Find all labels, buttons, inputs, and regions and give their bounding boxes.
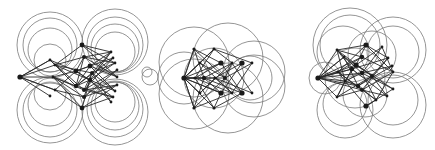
graph-node: [218, 90, 223, 95]
circle-arc: [17, 12, 83, 78]
graph-node: [49, 59, 52, 62]
graph-node: [231, 92, 234, 95]
graph-node: [74, 69, 79, 74]
graph-node: [375, 99, 378, 102]
graph-node: [363, 42, 368, 47]
graph-drawing-middle: [158, 23, 285, 133]
graph-node: [202, 76, 206, 80]
graph-node: [381, 46, 384, 49]
circle-arc: [23, 18, 77, 72]
graph-node: [199, 62, 202, 65]
graph-node: [387, 57, 390, 60]
graph-node: [360, 55, 364, 59]
graph-node: [114, 62, 117, 65]
graph-node: [54, 89, 57, 92]
graph-node: [112, 57, 115, 60]
graph-node: [392, 88, 395, 91]
graph-node: [231, 62, 234, 65]
graph-node: [88, 78, 92, 82]
graph-drawings-figure: [0, 0, 435, 150]
graph-node: [112, 96, 115, 99]
graph-node: [181, 75, 186, 80]
circle-arc: [95, 82, 135, 122]
graph-node: [353, 62, 358, 67]
circle-arc: [360, 72, 426, 138]
graph-node: [213, 76, 216, 79]
graph-drawing-left: [17, 9, 158, 145]
graph-node: [392, 71, 395, 74]
graph-node: [218, 60, 223, 65]
graph-node: [386, 95, 389, 98]
graph-node: [370, 74, 374, 78]
graph-node: [116, 69, 119, 72]
graph-node: [350, 67, 354, 71]
graph-node: [110, 101, 113, 104]
graph-node: [336, 49, 339, 52]
graph-drawing-right: [309, 8, 426, 138]
graph-node: [82, 88, 86, 92]
graph-node: [391, 65, 394, 68]
graph-node: [212, 47, 215, 50]
graph-node: [54, 64, 57, 67]
graph-node: [239, 90, 244, 95]
graph-node: [110, 51, 113, 54]
graph-node: [337, 71, 340, 74]
graph-node: [116, 76, 119, 79]
graph-node: [239, 60, 244, 65]
graph-node: [343, 56, 346, 59]
graph-node: [192, 47, 195, 50]
graph-node: [199, 92, 202, 95]
graph-node: [363, 103, 368, 108]
graph-node: [223, 76, 227, 80]
graph-node: [360, 88, 364, 92]
circle-arc: [91, 24, 139, 72]
graph-node: [74, 84, 78, 88]
graph-node: [88, 64, 93, 69]
graph-node: [360, 71, 364, 75]
graph-node: [212, 106, 215, 109]
graph-node: [82, 95, 86, 99]
graph-node: [116, 84, 119, 87]
graph-node: [90, 71, 94, 75]
graph-node: [344, 80, 347, 83]
graph-node: [251, 62, 254, 65]
circle-arc: [87, 81, 143, 137]
graph-node: [52, 76, 55, 79]
graph-node: [315, 75, 320, 80]
edge: [214, 93, 242, 108]
graph-node: [80, 106, 85, 111]
graph-node: [356, 84, 360, 88]
graph-node: [336, 96, 339, 99]
circle-arc: [142, 69, 158, 85]
graph-node: [17, 74, 22, 79]
graph-node: [114, 90, 117, 93]
graph-node: [192, 106, 195, 109]
graph-node: [49, 95, 52, 98]
graph-node: [251, 92, 254, 95]
edge: [337, 90, 362, 97]
graph-node: [82, 55, 86, 59]
circle-arc: [159, 59, 229, 129]
graph-node: [80, 43, 85, 48]
graph-node: [193, 76, 196, 79]
